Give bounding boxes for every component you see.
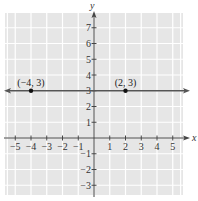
y-tick-label: 1 [86, 117, 91, 128]
x-tick-label: 5 [170, 141, 175, 152]
y-tick-label: 6 [86, 38, 91, 49]
x-tick-label: 3 [139, 141, 144, 152]
coordinate-plane: −5−4−3−2−112345−3−2−11234567 (−4, 3)(2, … [0, 0, 198, 201]
x-tick-label: −2 [57, 141, 68, 152]
y-tick-label: 2 [86, 101, 91, 112]
data-point [29, 89, 33, 93]
x-tick-label: −3 [41, 141, 52, 152]
point-label: (2, 3) [115, 77, 137, 89]
y-axis-label: y [89, 0, 95, 11]
y-tick-label: −2 [80, 164, 91, 175]
x-tick-label: −5 [10, 141, 21, 152]
y-tick-label: 7 [86, 22, 91, 33]
x-tick-label: 4 [155, 141, 160, 152]
x-tick-label: 2 [123, 141, 128, 152]
point-label: (−4, 3) [17, 77, 44, 89]
x-axis-label: x [191, 132, 197, 143]
data-point [123, 89, 127, 93]
y-tick-label: 4 [86, 70, 91, 81]
y-tick-label: −1 [80, 148, 91, 159]
x-tick-label: 1 [107, 141, 112, 152]
x-tick-label: −4 [26, 141, 37, 152]
y-tick-label: −3 [80, 180, 91, 191]
y-tick-label: 5 [86, 54, 91, 65]
